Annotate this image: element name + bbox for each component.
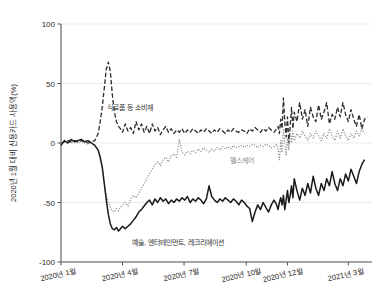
- y-tick-label: 50: [46, 80, 55, 89]
- y-axis-ticks-group: 100500-50-100: [39, 20, 61, 267]
- x-tick-label: 2020년 1월: [39, 265, 77, 283]
- series-line-2: [61, 139, 365, 231]
- x-tick-label: 2020년 10월: [220, 265, 262, 284]
- series-line-0: [61, 62, 367, 143]
- y-axis-title: 2020년 1월 대비 신용카드 사용액(%): [8, 84, 18, 202]
- data-series-group: [61, 62, 367, 231]
- x-tick-label: 2020년 12월: [262, 265, 304, 284]
- series-annotation-0: 식료품 등 소비재: [107, 103, 153, 112]
- x-tick-label: 2020년 4월: [101, 265, 139, 283]
- gridlines-group: [61, 24, 372, 262]
- y-tick-label: -100: [39, 258, 56, 267]
- x-axis-ticks-group: 2020년 1월2020년 4월2020년 7월2020년 10월2020년 1…: [39, 262, 365, 284]
- chart-container: 100500-50-100 2020년 1월2020년 4월2020년 7월20…: [0, 0, 384, 307]
- y-tick-label: 0: [51, 139, 56, 148]
- x-tick-label: 2020년 7월: [162, 265, 200, 283]
- x-tick-label: 2021년 3월: [327, 265, 365, 283]
- y-tick-label: 100: [42, 20, 56, 29]
- series-annotation-1: 헬스케어: [230, 156, 254, 165]
- series-annotation-2: 예술, 엔터테인먼트, 레크리에이션: [132, 238, 224, 247]
- line-chart: 100500-50-100 2020년 1월2020년 4월2020년 7월20…: [0, 0, 384, 307]
- y-tick-label: -50: [43, 199, 55, 208]
